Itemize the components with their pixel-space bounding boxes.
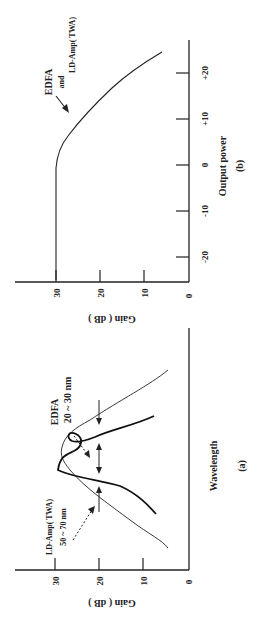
arrowhead-icon (84, 450, 90, 458)
xlabel-a: Wavelength (208, 440, 219, 491)
tick-b-p10: +10 (200, 111, 210, 126)
tick-b-10: 10 (140, 288, 150, 298)
annot-a-ld: LD-Amp( TWA) (45, 499, 54, 555)
ld-pointer (73, 510, 92, 540)
tick-b-30: 30 (52, 288, 62, 298)
arrowhead-icon (96, 418, 102, 425)
tick-b-m20: -20 (200, 251, 210, 263)
panel-a: 30 20 10 0 Gain ( dB ) Wavelength (a) ED… (15, 328, 248, 609)
arrowhead-icon (88, 506, 95, 514)
xlabel-b: Output power (217, 135, 228, 196)
arrowhead-icon (96, 486, 102, 493)
panel-b: 30 20 10 0 +20 +10 0 -10 -20 Output powe… (15, 17, 246, 325)
tick-b-0: 0 (184, 293, 194, 298)
tick-a-30: 30 (51, 576, 61, 586)
annot-a-ld-bw: 50 ~ 70 nm (59, 508, 68, 546)
caption-a: (a) (236, 460, 248, 472)
ld-amp-curve (61, 370, 168, 548)
arrowhead-icon (96, 467, 102, 474)
annot-b-edfa: EDFA (43, 68, 54, 95)
tick-a-20: 20 (95, 576, 105, 586)
ylabel-b: Gain ( dB ) (88, 313, 136, 325)
tick-a-10: 10 (139, 576, 149, 586)
ylabel-a: Gain ( dB ) (88, 597, 136, 609)
tick-b-20: 20 (96, 288, 106, 298)
annot-b-ld: LD-Amp( TWA) (68, 17, 77, 73)
tick-b-m10: -10 (200, 205, 210, 217)
annot-a-edfa-bw: 20 ~ 30 nm (62, 376, 73, 423)
figure-canvas: 30 20 10 0 +20 +10 0 -10 -20 Output powe… (0, 0, 260, 636)
tick-a-0: 0 (184, 579, 194, 584)
annot-a-edfa: EDFA (49, 398, 60, 425)
tick-b-0p: 0 (200, 162, 210, 167)
gain-saturation-curve (56, 52, 162, 280)
annot-b-and: and (57, 75, 66, 88)
arrowhead-icon (96, 443, 102, 450)
caption-b: (b) (234, 160, 246, 172)
tick-b-p20: +20 (200, 65, 210, 80)
